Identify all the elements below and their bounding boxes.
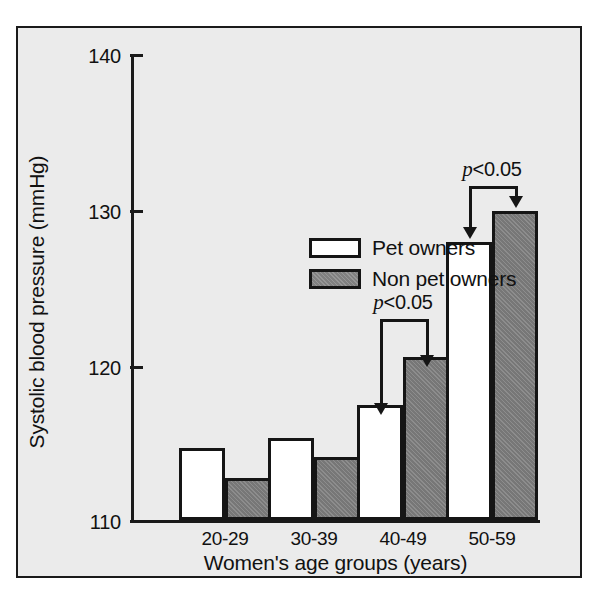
- x-axis-title: Women's age groups (years): [131, 551, 540, 575]
- bar-pet-owners-40-49: [357, 405, 403, 520]
- y-tick-130: 130: [130, 210, 143, 213]
- significance-rest-40-49: <0.05: [384, 291, 433, 313]
- significance-stem-right-40-49: [426, 319, 429, 357]
- significance-arrowhead-right-50-59: [509, 196, 523, 208]
- significance-rest-50-59: <0.05: [473, 158, 522, 180]
- legend-label-non-pet-owners: Non pet owners: [372, 267, 516, 291]
- y-tick-120: 120: [130, 366, 143, 369]
- x-tick-label-40-49: 40-49: [379, 528, 426, 550]
- bar-non-pet-owners-20-29: [225, 478, 271, 520]
- significance-arrowhead-left-40-49: [374, 403, 388, 415]
- x-tick-label-20-29: 20-29: [201, 528, 248, 550]
- y-tick-label-130: 130: [88, 200, 121, 223]
- legend-swatch-white-icon: [309, 238, 361, 258]
- significance-label-50-59: p<0.05: [462, 157, 521, 182]
- significance-arrowhead-right-40-49: [420, 355, 434, 367]
- significance-p-italic-40-49: p: [373, 290, 383, 314]
- y-axis-title: Systolic blood pressure (mmHg): [25, 102, 49, 502]
- legend-item-non-pet-owners: Non pet owners: [309, 267, 516, 291]
- bar-pet-owners-20-29: [179, 448, 225, 520]
- x-axis-line: [131, 520, 540, 523]
- legend-label-pet-owners: Pet owners: [372, 236, 475, 260]
- significance-annotation-40-49: p<0.05: [357, 290, 449, 415]
- significance-stem-left-40-49: [380, 319, 383, 405]
- x-tick-label-50-59: 50-59: [468, 528, 515, 550]
- figure-root: Systolic blood pressure (mmHg) Women's a…: [0, 0, 598, 604]
- significance-bracket-50-59: [469, 186, 518, 189]
- y-tick-140: 140: [130, 54, 143, 57]
- bar-non-pet-owners-30-39: [314, 457, 360, 520]
- x-tick-label-30-39: 30-39: [290, 528, 337, 550]
- significance-bracket-40-49: [380, 319, 429, 322]
- y-tick-110: 110: [130, 520, 143, 523]
- plot-area: 140 130 120 110 20-29 30-39 40-49 50-59: [131, 54, 540, 523]
- legend: Pet owners Non pet owners: [309, 236, 516, 291]
- bar-pet-owners-30-39: [268, 438, 314, 520]
- y-axis-line: [131, 54, 134, 523]
- y-tick-label-120: 120: [88, 356, 121, 379]
- y-tick-label-110: 110: [90, 510, 121, 533]
- legend-swatch-gray-icon: [309, 269, 361, 289]
- significance-label-40-49: p<0.05: [373, 290, 432, 315]
- significance-stem-left-50-59: [469, 186, 472, 229]
- legend-item-pet-owners: Pet owners: [309, 236, 516, 260]
- significance-p-italic-50-59: p: [462, 157, 472, 181]
- y-tick-label-140: 140: [88, 44, 121, 67]
